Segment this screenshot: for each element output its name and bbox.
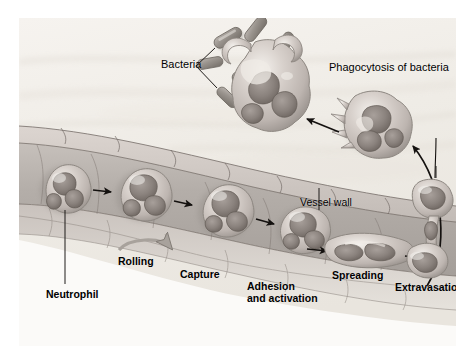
label-spreading: Spreading <box>332 270 383 282</box>
label-phagocytosis-of-bacteria: Phagocytosis of bacteria <box>329 62 449 74</box>
label-extravasation: Extravasation <box>395 282 456 294</box>
label-neutrophil: Neutrophil <box>46 289 99 301</box>
label-vessel-wall: Vessel wall <box>300 197 352 209</box>
label-adhesion-line2: and activation <box>247 292 318 304</box>
illustration-plate: Bacteria Phagocytosis of bacteria Vessel… <box>19 18 456 346</box>
label-bacteria: Bacteria <box>161 59 201 71</box>
label-capture: Capture <box>180 269 220 281</box>
label-adhesion-line1: Adhesion <box>247 280 295 292</box>
diagram-figure: Bacteria Phagocytosis of bacteria Vessel… <box>0 0 472 363</box>
label-rolling: Rolling <box>118 256 154 268</box>
label-adhesion-and-activation: Adhesionand activation <box>247 281 318 304</box>
